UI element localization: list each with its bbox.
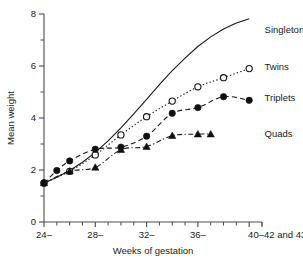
series-label-triplets: Triplets — [265, 92, 296, 103]
y-tick-label-0: 0 — [31, 216, 36, 227]
data-point-twins-7 — [220, 75, 226, 81]
data-point-triplets-1 — [54, 167, 60, 173]
x-axis-title: Weeks of gestation — [113, 245, 194, 256]
data-point-triplets-3 — [92, 146, 98, 152]
data-point-quads-7 — [207, 131, 214, 137]
y-tick-label-3: 6 — [31, 60, 36, 71]
data-point-triplets-2 — [66, 158, 72, 164]
series-line-singletons — [44, 19, 249, 183]
data-point-triplets-6 — [169, 110, 175, 116]
growth-chart: 0246824–28–32–36–40–42 and 43Weeks of ge… — [0, 0, 303, 259]
y-tick-label-4: 8 — [31, 8, 36, 19]
chart-container: 0246824–28–32–36–40–42 and 43Weeks of ge… — [0, 0, 303, 259]
x-tick-label-0: 24– — [36, 229, 53, 240]
data-point-triplets-5 — [143, 133, 149, 139]
y-tick-label-1: 2 — [31, 164, 36, 175]
series-label-twins: Twins — [265, 61, 290, 72]
series-label-singletons: Singletons — [265, 24, 303, 35]
series-line-twins — [44, 69, 249, 183]
x-tick-label-3: 36– — [190, 229, 207, 240]
data-point-quads-2 — [92, 164, 99, 170]
data-point-twins-2 — [92, 152, 98, 158]
data-point-quads-5 — [169, 132, 176, 138]
series-label-quads: Quads — [265, 128, 293, 139]
y-axis-title: Mean weight — [5, 91, 16, 145]
data-point-triplets-7 — [195, 104, 201, 110]
data-point-triplets-8 — [220, 93, 226, 99]
x-tick-label-4: 40–42 and 43 — [248, 229, 303, 240]
y-tick-label-2: 4 — [31, 112, 36, 123]
data-point-twins-4 — [143, 114, 149, 120]
data-point-twins-8 — [246, 66, 252, 72]
data-point-twins-5 — [169, 98, 175, 104]
data-point-triplets-9 — [246, 97, 252, 103]
x-tick-label-2: 32– — [139, 229, 156, 240]
data-point-twins-3 — [118, 132, 124, 138]
data-point-twins-6 — [195, 84, 201, 90]
axis-lines — [44, 14, 262, 222]
x-tick-label-1: 28– — [87, 229, 104, 240]
